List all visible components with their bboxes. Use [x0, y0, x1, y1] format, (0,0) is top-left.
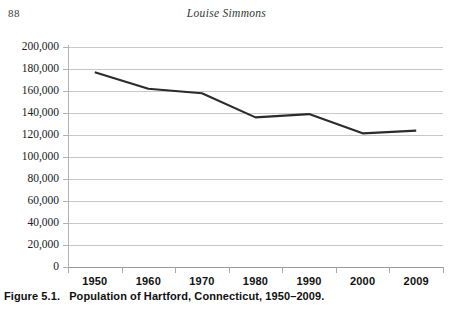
y-axis-label: 20,000 — [1, 239, 59, 251]
y-axis-tick — [63, 113, 69, 114]
y-axis-tick — [63, 201, 69, 202]
y-axis-label: 60,000 — [1, 195, 59, 207]
y-axis-tick — [63, 245, 69, 246]
x-axis-tick — [282, 267, 283, 273]
line-chart: 020,00040,00060,00080,000100,000120,0001… — [0, 30, 453, 288]
x-axis-label: 2000 — [336, 275, 390, 287]
y-axis-tick — [63, 135, 69, 136]
x-axis-tick — [175, 267, 176, 273]
y-axis-tick — [63, 91, 69, 92]
x-axis-tick — [122, 267, 123, 273]
x-axis-tick — [336, 267, 337, 273]
figure-caption: Figure 5.1.Population of Hartford, Conne… — [4, 290, 453, 302]
x-axis-label: 1980 — [229, 275, 283, 287]
x-axis-label: 1990 — [282, 275, 336, 287]
y-axis-label: 200,000 — [1, 41, 59, 53]
series-polyline — [95, 72, 416, 133]
y-axis-label: 0 — [1, 261, 59, 273]
y-axis-tick — [63, 179, 69, 180]
y-axis-label: 80,000 — [1, 173, 59, 185]
x-axis-label: 1970 — [175, 275, 229, 287]
x-axis-label: 1950 — [68, 275, 122, 287]
x-axis-label: 1960 — [122, 275, 176, 287]
y-axis-tick — [63, 69, 69, 70]
x-axis-label: 2009 — [389, 275, 443, 287]
y-axis-tick — [63, 157, 69, 158]
data-series-line — [68, 47, 443, 267]
x-axis-tick — [389, 267, 390, 273]
figure-block: 020,00040,00060,00080,000100,000120,0001… — [0, 30, 453, 312]
x-axis-tick — [68, 267, 69, 273]
x-axis-line — [68, 267, 443, 268]
y-axis-label: 100,000 — [1, 151, 59, 163]
y-axis-label: 40,000 — [1, 217, 59, 229]
y-axis-label: 180,000 — [1, 63, 59, 75]
figure-caption-text: Population of Hartford, Connecticut, 195… — [69, 290, 324, 302]
y-axis-tick — [63, 47, 69, 48]
y-axis-label: 160,000 — [1, 85, 59, 97]
x-axis-tick — [443, 267, 444, 273]
figure-caption-label: Figure 5.1. — [4, 290, 60, 302]
running-head-author: Louise Simmons — [0, 7, 453, 19]
y-axis-tick — [63, 223, 69, 224]
y-axis-label: 120,000 — [1, 129, 59, 141]
running-head: 88 Louise Simmons — [0, 0, 453, 30]
y-axis-label: 140,000 — [1, 107, 59, 119]
x-axis-tick — [229, 267, 230, 273]
